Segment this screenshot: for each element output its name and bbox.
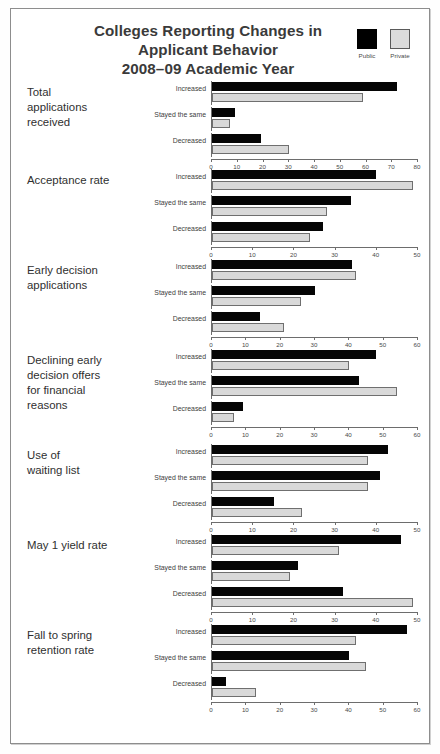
bar-row: Decreased	[211, 221, 417, 245]
bar-public	[212, 651, 349, 660]
bar-row-label: Decreased	[173, 405, 206, 412]
bar-row: Stayed the same	[211, 650, 417, 674]
panel-rows: IncreasedStayed the sameDecreased	[139, 622, 417, 700]
bar-private	[212, 233, 310, 242]
bar-public	[212, 260, 352, 269]
bar-row-label: Increased	[176, 353, 206, 360]
x-axis-tick-label: 30	[311, 706, 318, 713]
legend-swatch-private-icon	[390, 29, 410, 49]
bar-pair	[211, 586, 417, 610]
bar-row-label: Increased	[176, 448, 206, 455]
bar-private	[212, 508, 302, 517]
bar-row: Decreased	[211, 133, 417, 157]
bar-pair	[211, 169, 417, 193]
bar-private	[212, 323, 284, 332]
bar-private	[212, 598, 413, 607]
x-axis-tick-label: 50	[379, 431, 386, 438]
bar-row-label: Decreased	[173, 590, 206, 597]
bar-public	[212, 350, 376, 359]
panel-rows: IncreasedStayed the sameDecreased	[139, 532, 417, 610]
x-axis-line	[211, 247, 417, 248]
bar-private	[212, 207, 327, 216]
panel-title: Early decision applications	[23, 257, 139, 293]
bar-pair	[211, 349, 417, 373]
bar-row-label: Stayed the same	[154, 474, 206, 481]
bar-private	[212, 688, 256, 697]
x-axis-tick-label: 0	[209, 706, 212, 713]
bar-row: Decreased	[211, 311, 417, 335]
bar-row: Stayed the same	[211, 470, 417, 494]
bar-private	[212, 271, 356, 280]
bar-pair	[211, 534, 417, 558]
panel-title: Fall to spring retention rate	[23, 622, 139, 658]
bar-public	[212, 561, 298, 570]
bar-row: Increased	[211, 624, 417, 648]
legend-item-private: Private	[387, 29, 413, 59]
panel-plot: IncreasedStayed the sameDecreased0102030…	[139, 79, 417, 167]
bar-pair	[211, 107, 417, 131]
chart-page: Colleges Reporting Changes in Applicant …	[0, 0, 440, 754]
bar-row: Decreased	[211, 676, 417, 700]
bar-public	[212, 535, 401, 544]
chart-panel: Total applications receivedIncreasedStay…	[23, 79, 417, 167]
bar-row-label: Increased	[176, 628, 206, 635]
bar-pair	[211, 81, 417, 105]
x-axis-tick-label: 40	[345, 706, 352, 713]
bar-row: Stayed the same	[211, 560, 417, 584]
bar-row: Stayed the same	[211, 375, 417, 399]
panel-rows: IncreasedStayed the sameDecreased	[139, 79, 417, 157]
x-axis-tick-label: 30	[311, 431, 318, 438]
bar-private	[212, 145, 289, 154]
chart-panel: Use of waiting listIncreasedStayed the s…	[23, 442, 417, 532]
bar-row-label: Stayed the same	[154, 199, 206, 206]
bar-row-label: Decreased	[173, 500, 206, 507]
bar-public	[212, 587, 343, 596]
chart-frame: Colleges Reporting Changes in Applicant …	[10, 8, 430, 744]
bar-pair	[211, 650, 417, 674]
chart-panel: Declining early decision offers for fina…	[23, 347, 417, 442]
bar-row-label: Stayed the same	[154, 654, 206, 661]
bar-public	[212, 286, 315, 295]
panel-rows: IncreasedStayed the sameDecreased	[139, 442, 417, 520]
legend-label-public: Public	[359, 52, 376, 59]
bar-pair	[211, 624, 417, 648]
bar-pair	[211, 470, 417, 494]
chart-panels: Total applications receivedIncreasedStay…	[23, 79, 417, 724]
bar-private	[212, 456, 368, 465]
x-axis-line	[211, 522, 417, 523]
bar-row-label: Decreased	[173, 315, 206, 322]
bar-row-label: Stayed the same	[154, 289, 206, 296]
legend-item-public: Public	[354, 29, 380, 59]
panel-rows: IncreasedStayed the sameDecreased	[139, 167, 417, 245]
legend-swatch-public-icon	[357, 29, 377, 49]
x-axis-line	[211, 612, 417, 613]
x-axis-tick-label: 60	[414, 431, 421, 438]
bar-private	[212, 572, 290, 581]
legend-label-private: Private	[390, 52, 409, 59]
x-axis-tick-label: 10	[242, 706, 249, 713]
bar-private	[212, 546, 339, 555]
x-axis-tick-label: 0	[209, 431, 212, 438]
chart-header: Colleges Reporting Changes in Applicant …	[23, 17, 417, 79]
bar-row: Decreased	[211, 496, 417, 520]
bar-pair	[211, 444, 417, 468]
bar-private	[212, 119, 230, 128]
bar-row: Stayed the same	[211, 285, 417, 309]
bar-public	[212, 196, 351, 205]
bar-row-label: Increased	[176, 173, 206, 180]
chart-panel: Early decision applicationsIncreasedStay…	[23, 257, 417, 347]
bar-row-label: Stayed the same	[154, 564, 206, 571]
chart-panel: May 1 yield rateIncreasedStayed the same…	[23, 532, 417, 622]
bar-private	[212, 387, 397, 396]
x-axis-tick-label: 50	[379, 706, 386, 713]
x-axis: 0102030405060	[211, 702, 417, 716]
panel-title: Acceptance rate	[23, 167, 139, 188]
panel-title: Total applications received	[23, 79, 139, 130]
x-axis-tick-label: 10	[242, 431, 249, 438]
bar-row: Increased	[211, 81, 417, 105]
panel-title: Declining early decision offers for fina…	[23, 347, 139, 414]
panel-plot: IncreasedStayed the sameDecreased0102030…	[139, 347, 417, 442]
bar-public	[212, 82, 397, 91]
bar-pair	[211, 375, 417, 399]
bar-row: Increased	[211, 534, 417, 558]
